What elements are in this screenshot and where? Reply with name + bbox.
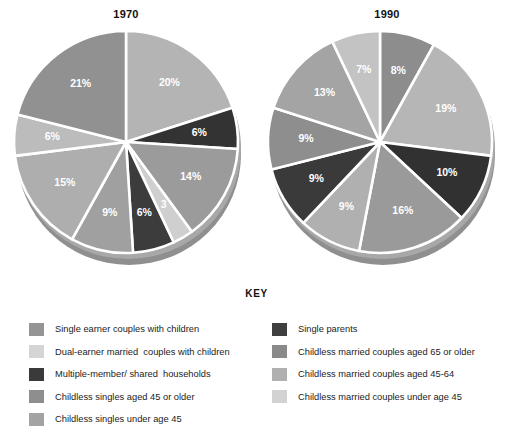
pie-slice-label: 20% — [159, 76, 181, 88]
legend-swatch-childless-singles-under-45 — [29, 413, 44, 426]
legend-item[interactable]: Childless married couples under age 45 — [272, 386, 510, 409]
legend: Single earner couples with childrenDual-… — [0, 318, 513, 443]
pie-slice-label: 16% — [392, 204, 414, 216]
legend-swatch-childless-married-65-older — [272, 345, 287, 358]
legend-item[interactable]: Dual-earner married couples with childre… — [29, 341, 269, 364]
pie-slice-label: 8% — [391, 64, 407, 76]
legend-item[interactable]: Single parents — [272, 318, 510, 341]
legend-column-left: Single earner couples with childrenDual-… — [29, 318, 269, 431]
pie-slice-label: 9% — [299, 132, 315, 144]
legend-item-label: Childless married couples under age 45 — [298, 392, 462, 402]
pie-slice-label: 21% — [70, 77, 92, 89]
pie-slice-label: 9% — [102, 206, 118, 218]
pie-slice-label: 14% — [180, 170, 202, 182]
chart-title-1970: 1970 — [66, 8, 186, 20]
pie-slice-label: 3 — [161, 198, 167, 210]
legend-item[interactable]: Single earner couples with children — [29, 318, 269, 341]
legend-item-label: Single parents — [298, 324, 357, 334]
pie-chart-1990: 8%19%10%16%9%9%9%13%7% — [262, 28, 506, 272]
legend-swatch-childless-married-45-64 — [272, 368, 287, 381]
legend-swatch-single-earner-couples — [29, 323, 44, 336]
key-title: KEY — [0, 288, 513, 299]
pie-chart-1970: 20%6%14%36%9%15%6%21% — [8, 28, 252, 272]
legend-swatch-childless-married-under-45 — [272, 390, 287, 403]
chart-title-1990: 1990 — [327, 8, 447, 20]
legend-item-label: Childless married couples aged 45-64 — [298, 369, 454, 379]
legend-item[interactable]: Childless singles under age 45 — [29, 408, 269, 431]
legend-item-label: Childless singles under age 45 — [55, 414, 182, 424]
legend-item[interactable]: Childless singles aged 45 or older — [29, 386, 269, 409]
pie-slice-label: 15% — [54, 176, 76, 188]
pie-slice-label: 6% — [192, 126, 208, 138]
legend-column-right: Single parentsChildless married couples … — [272, 318, 510, 408]
legend-item-label: Childless married couples aged 65 or old… — [298, 347, 475, 357]
pie-slice-label: 10% — [436, 166, 458, 178]
legend-item[interactable]: Childless married couples aged 65 or old… — [272, 341, 510, 364]
pie-slice-label: 13% — [314, 86, 336, 98]
legend-swatch-single-parents — [272, 323, 287, 336]
legend-swatch-multiple-member-households — [29, 368, 44, 381]
legend-item[interactable]: Multiple-member/ shared households — [29, 363, 269, 386]
pie-chart-1970-svg: 20%6%14%36%9%15%6%21% — [8, 28, 252, 272]
pie-slice-label: 6% — [137, 206, 153, 218]
legend-swatch-childless-singles-45-older — [29, 390, 44, 403]
legend-item[interactable]: Childless married couples aged 45-64 — [272, 363, 510, 386]
pie-slice-label: 9% — [309, 172, 325, 184]
legend-swatch-dual-earner-couples — [29, 345, 44, 358]
pie-slice-label: 6% — [45, 130, 61, 142]
pie-slice-label: 7% — [356, 63, 372, 75]
legend-item-label: Single earner couples with children — [55, 324, 199, 334]
legend-item-label: Childless singles aged 45 or older — [55, 392, 195, 402]
pie-slice-label: 9% — [339, 200, 355, 212]
legend-item-label: Dual-earner married couples with childre… — [55, 347, 230, 357]
pie-chart-1990-svg: 8%19%10%16%9%9%9%13%7% — [262, 28, 506, 272]
pie-slice-label: 19% — [435, 102, 457, 114]
legend-item-label: Multiple-member/ shared households — [55, 369, 211, 379]
